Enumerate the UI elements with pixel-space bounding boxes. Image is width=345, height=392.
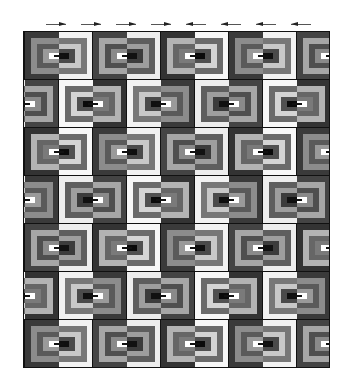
quilt-pattern [23,31,330,368]
center-bar [156,103,166,105]
quilt-block [160,128,228,176]
quilt-block [126,80,194,128]
quilt-block [24,176,58,224]
center-bar [190,151,200,153]
quilt-block [296,224,330,272]
quilt-block [194,176,262,224]
quilt-block [262,176,330,224]
center-bar [156,199,166,201]
quilt-block [92,128,160,176]
quilt-block [92,32,160,80]
center-bar [326,343,330,345]
quilt-row [24,128,330,176]
quilt-block [24,32,92,80]
center-bar [122,55,132,57]
center-bar [292,199,302,201]
center-bar [326,55,330,57]
direction-arrows [0,0,345,31]
center-bar [190,55,200,57]
center-bar [258,55,268,57]
center-bar [190,247,200,249]
quilt-block [126,272,194,320]
center-bar [224,103,234,105]
quilt-block [228,32,296,80]
quilt-block [296,320,330,368]
center-bar [122,151,132,153]
center-bar [224,199,234,201]
arrow-right-icon [151,22,171,26]
center-bar [54,55,64,57]
quilt-block [160,224,228,272]
center-bar [24,199,30,201]
quilt-row [24,272,330,320]
center-bar [258,247,268,249]
arrow-left-icon [221,22,241,26]
center-bar [326,247,330,249]
quilt-block [262,80,330,128]
arrow-left-icon [256,22,276,26]
quilt-block [194,272,262,320]
quilt-block [228,224,296,272]
center-bar [292,295,302,297]
quilt-block [92,224,160,272]
quilt-row [24,32,330,80]
arrow-left-icon [186,22,206,26]
center-bar [54,247,64,249]
center-bar [88,295,98,297]
quilt-block [228,320,296,368]
quilt-block [194,80,262,128]
quilt-block [228,128,296,176]
quilt-row [24,320,330,368]
quilt-block [58,176,126,224]
center-bar [24,295,30,297]
quilt-block [160,320,228,368]
quilt-block [296,32,330,80]
arrow-left-icon [291,22,311,26]
center-bar [258,151,268,153]
quilt-row [24,224,330,272]
arrow-right-icon [46,22,66,26]
center-bar [54,151,64,153]
quilt-block [126,176,194,224]
center-bar [122,247,132,249]
center-bar [258,343,268,345]
arrow-right-icon [81,22,101,26]
quilt-block [24,320,92,368]
quilt-block [92,320,160,368]
quilt-block [58,80,126,128]
center-bar [292,103,302,105]
center-bar [88,199,98,201]
center-bar [190,343,200,345]
quilt-block [24,80,58,128]
quilt-block [160,32,228,80]
quilt-block [58,272,126,320]
quilt-row [24,176,330,224]
quilt-block [24,128,92,176]
center-bar [54,343,64,345]
center-bar [224,295,234,297]
quilt-row [24,80,330,128]
quilt-block [24,224,92,272]
quilt-block [262,272,330,320]
center-bar [326,151,330,153]
center-bar [122,343,132,345]
center-bar [24,103,30,105]
quilt-block [24,272,58,320]
arrow-right-icon [116,22,136,26]
quilt-block [296,128,330,176]
center-bar [156,295,166,297]
center-bar [88,103,98,105]
